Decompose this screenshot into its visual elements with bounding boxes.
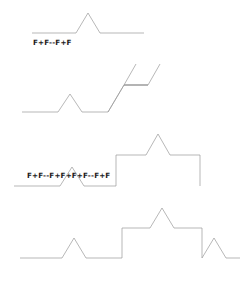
koch-lsystem-figure: F+F--F+F F+F--F+F+F+F--F+F F+F--F+F+F+F-…	[0, 0, 245, 288]
koch-panel-1: F+F--F+F	[0, 0, 245, 52]
koch-polyline-1	[32, 13, 144, 33]
koch-polyline-2-upper	[108, 64, 160, 112]
koch-drawing-4	[0, 204, 245, 288]
koch-drawing-3	[0, 130, 245, 204]
koch-polyline-4	[20, 208, 240, 258]
koch-polyline-3	[14, 134, 200, 186]
koch-panel-4: F+F--F+F+F+F--F+F--F+F--F+F+F+F+F+F--F+F	[0, 204, 245, 288]
koch-panel-3: F+F--F+F+F+F--F+F--F+F--F+F+F+F	[0, 130, 245, 204]
lsystem-string-1: F+F--F+F	[33, 38, 72, 47]
koch-polyline-2	[22, 64, 148, 112]
koch-drawing-2	[0, 52, 245, 130]
koch-panel-2: F+F--F+F+F+F--F+F	[0, 52, 245, 130]
